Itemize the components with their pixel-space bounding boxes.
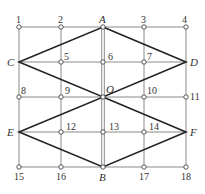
grid-node-6 xyxy=(101,60,105,64)
grid-node-13 xyxy=(101,130,105,134)
grid-node-17 xyxy=(142,165,146,169)
grid-node-2 xyxy=(59,25,63,29)
grid-node-16 xyxy=(59,165,63,169)
grid-node-10 xyxy=(142,95,146,99)
point-label-5: 5 xyxy=(64,51,69,62)
grid-node-7 xyxy=(142,60,146,64)
grid-node-12 xyxy=(59,130,63,134)
grid-node-18 xyxy=(184,165,188,169)
point-label-B: B xyxy=(99,171,106,183)
grid-node-5 xyxy=(59,60,63,64)
grid-node-4 xyxy=(184,25,188,29)
point-label-2: 2 xyxy=(58,14,63,25)
grid-node-14 xyxy=(142,130,146,134)
point-label-6: 6 xyxy=(108,51,113,62)
point-label-18: 18 xyxy=(181,171,191,182)
point-label-9: 9 xyxy=(65,85,70,96)
point-label-7: 7 xyxy=(147,51,152,62)
point-label-4: 4 xyxy=(182,14,187,25)
point-label-15: 15 xyxy=(14,171,24,182)
point-label-O: O xyxy=(106,83,114,95)
point-label-12: 12 xyxy=(66,121,76,132)
point-label-F: F xyxy=(189,126,197,138)
grid-node-O xyxy=(101,95,105,99)
grid-node-B xyxy=(101,165,105,169)
point-label-E: E xyxy=(6,126,14,138)
grid-node-1 xyxy=(17,25,21,29)
point-label-A: A xyxy=(98,13,106,25)
point-label-17: 17 xyxy=(139,171,149,182)
point-label-14: 14 xyxy=(149,121,159,132)
grid-node-A xyxy=(101,25,105,29)
grid-node-11 xyxy=(184,95,188,99)
point-label-13: 13 xyxy=(109,121,119,132)
grid-node-9 xyxy=(59,95,63,99)
point-label-C: C xyxy=(7,56,15,68)
point-label-1: 1 xyxy=(16,14,21,25)
point-label-D: D xyxy=(189,56,198,68)
point-label-16: 16 xyxy=(56,171,66,182)
grid-rhombus-diagram: 12A34C567D89O1011E121314F1516B1718 xyxy=(0,0,205,194)
grid-node-15 xyxy=(17,165,21,169)
point-label-8: 8 xyxy=(21,85,26,96)
point-label-10: 10 xyxy=(147,85,157,96)
point-label-3: 3 xyxy=(141,14,146,25)
grid-node-3 xyxy=(142,25,146,29)
point-label-11: 11 xyxy=(190,91,200,102)
